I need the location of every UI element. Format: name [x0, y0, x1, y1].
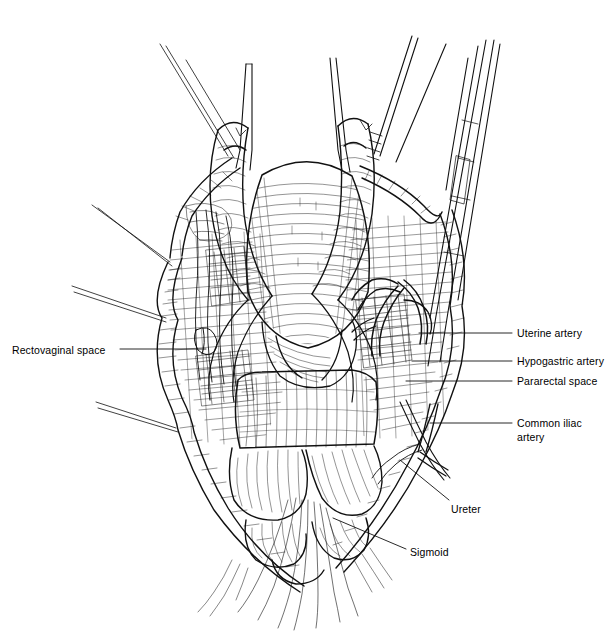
- illustration-canvas: Rectovaginal space Uterine artery Hypoga…: [0, 0, 616, 642]
- leader-sigmoid: [333, 518, 406, 549]
- label-ureter: Ureter: [451, 503, 481, 517]
- abdominal-wall-edge: [157, 158, 464, 592]
- label-hypogastric-artery: Hypogastric artery: [517, 355, 604, 369]
- leader-lines: [120, 333, 512, 549]
- anatomy-line-art: [0, 0, 616, 642]
- sigmoid-shading: [237, 449, 378, 562]
- label-sigmoid: Sigmoid: [410, 546, 449, 560]
- retraction-suture-group-left: [72, 44, 240, 432]
- label-rectovaginal-space: Rectovaginal space: [12, 344, 105, 358]
- right-round-ligament: [312, 118, 374, 300]
- left-pelvic-sidewall-tissue: [168, 203, 290, 450]
- label-uterine-artery: Uterine artery: [517, 327, 582, 341]
- label-pararectal-space: Pararectal space: [517, 375, 597, 389]
- label-common-iliac-artery: Common iliac artery: [517, 417, 582, 444]
- broad-ligament-left: [209, 296, 272, 402]
- pedicle-clamp-tips: [236, 120, 382, 160]
- rectum-shading: [240, 371, 376, 447]
